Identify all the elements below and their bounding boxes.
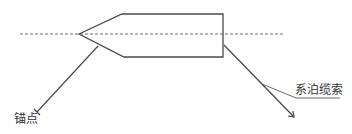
anchor-point-label: 锚点 <box>14 113 38 125</box>
mooring-line <box>224 45 294 117</box>
ship-hull <box>79 14 223 57</box>
mooring-diagram <box>0 0 352 134</box>
mooring-line-label: 系泊缆索 <box>295 84 343 96</box>
anchor-line <box>37 46 98 112</box>
